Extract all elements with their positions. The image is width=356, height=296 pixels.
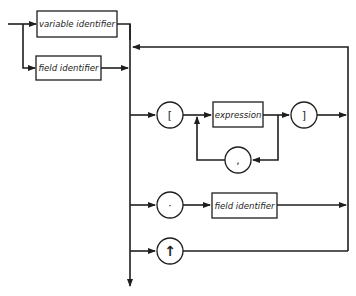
field-identifier-start-label: field identifier (38, 63, 99, 73)
field-selector: · field identifier (130, 192, 346, 218)
close-bracket-symbol: ] (302, 109, 306, 122)
field-identifier-start-box: field identifier (36, 56, 101, 80)
field-identifier-label: field identifier (214, 201, 275, 211)
variable-identifier-box: variable identifier (37, 11, 117, 37)
open-bracket-symbol: [ (168, 109, 172, 122)
up-arrow-icon: ↑ (164, 243, 176, 259)
index-selector: [ expression ] , (130, 102, 346, 173)
entry-path (8, 24, 36, 68)
expression-label: expression (215, 110, 262, 120)
variable-identifier-label: variable identifier (39, 19, 116, 29)
syntax-diagram: variable identifier field identifier [ e… (0, 0, 356, 296)
dot-symbol: · (168, 199, 172, 212)
pointer-selector: ↑ (130, 238, 348, 264)
comma-symbol: , (236, 154, 240, 167)
variable-exit-path (117, 24, 130, 40)
